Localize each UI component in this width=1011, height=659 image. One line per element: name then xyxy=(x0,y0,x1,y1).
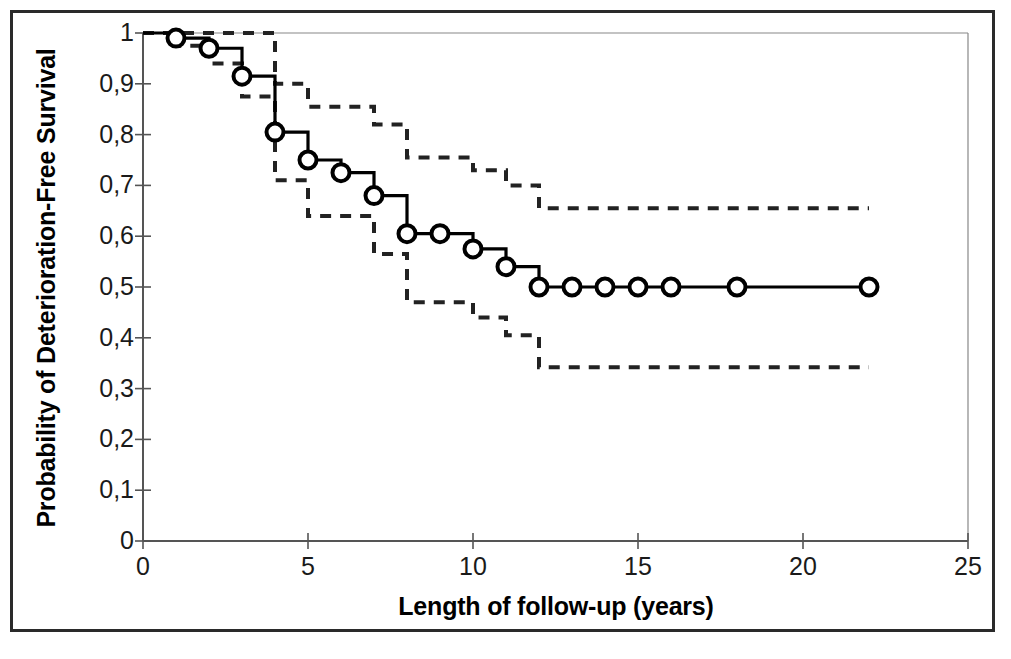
censor-marker xyxy=(663,279,680,296)
censor-marker xyxy=(564,279,581,296)
axis-ticks xyxy=(135,33,968,549)
upper-confidence-band xyxy=(143,33,869,208)
censor-marker xyxy=(333,164,350,181)
censor-marker xyxy=(498,258,515,275)
censor-marker xyxy=(432,225,449,242)
censor-marker xyxy=(531,279,548,296)
censor-marker xyxy=(201,40,218,57)
censor-marker xyxy=(267,124,284,141)
censor-marker xyxy=(630,279,647,296)
censor-marker xyxy=(300,152,317,169)
censor-marker xyxy=(366,187,383,204)
censor-marker xyxy=(399,225,416,242)
plot-area xyxy=(0,0,1011,659)
censor-marker xyxy=(168,30,185,47)
censor-marker xyxy=(234,68,251,85)
censor-marker xyxy=(597,279,614,296)
figure-container: Probability of Deterioration-Free Surviv… xyxy=(0,0,1011,659)
lower-confidence-band xyxy=(143,33,869,367)
censor-marker xyxy=(861,279,878,296)
survival-curve xyxy=(143,33,869,287)
censor-marker xyxy=(465,240,482,257)
censor-marker xyxy=(729,279,746,296)
